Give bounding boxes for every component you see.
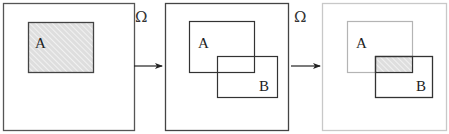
set-b-label: B — [259, 78, 269, 94]
intersection-shaded — [376, 57, 413, 73]
set-a-label: A — [198, 35, 209, 51]
panel-1: A — [4, 4, 135, 131]
panel-2: A B — [166, 4, 289, 131]
set-a-label: A — [356, 35, 367, 51]
set-b-label: B — [416, 78, 426, 94]
set-a-label: A — [35, 35, 46, 51]
panel-3: A B — [323, 4, 447, 131]
omega-symbol-2: Ω — [294, 8, 306, 26]
set-intersection-diagram: A Ω A B Ω A B — [0, 0, 449, 134]
universe-box-2 — [166, 4, 289, 131]
omega-symbol-1: Ω — [135, 8, 147, 26]
